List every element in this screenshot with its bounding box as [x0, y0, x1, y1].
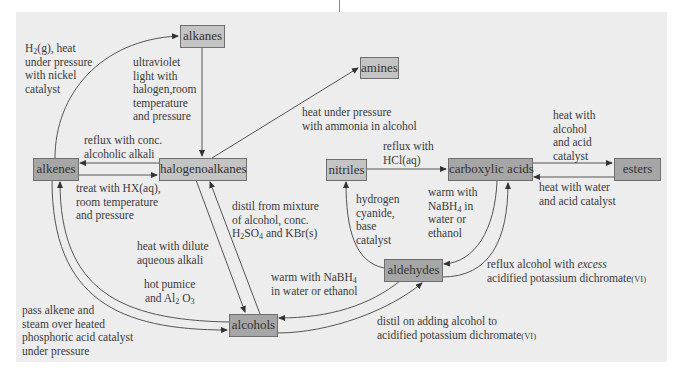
- label-hydrolysis: heat with waterand acid catalyst: [539, 181, 616, 208]
- node-carboxylic-acids: carboxylic acids: [448, 158, 533, 181]
- node-alkanes: alkanes: [180, 25, 225, 48]
- label-distil-kbr: distil from mixtureof alcohol, conc.H2SO…: [232, 200, 319, 241]
- node-amines: amines: [360, 57, 399, 79]
- node-halogenoalkanes: halogenoalkanes: [159, 158, 247, 181]
- label-hydrogenation: H2(g), heatunder pressurewith nickelcata…: [25, 42, 92, 96]
- label-esterification: heat withalcoholand acidcatalyst: [553, 109, 595, 163]
- node-nitriles: nitriles: [326, 159, 367, 181]
- label-dilute-alkali: heat with diluteaqueous alkali: [137, 240, 209, 267]
- label-hcl: reflux withHCl(aq): [383, 140, 434, 167]
- label-uv-halogenation: ultravioletlight withhalogen,roomtempera…: [133, 56, 197, 124]
- label-nabh4-aldehyde: warm with NaBH4in water or ethanol: [271, 271, 358, 298]
- label-steam: pass alkene andsteam over heatedphosphor…: [22, 304, 133, 358]
- label-pumice: hot pumiceand Al2 O3: [144, 278, 195, 305]
- label-distil-aldehyde: distil on adding alcohol toacidified pot…: [377, 315, 536, 343]
- label-hcn: hydrogencyanide,basecatalyst: [356, 193, 399, 247]
- label-excess-dichromate: reflux alcohol with excessacidified pota…: [487, 258, 646, 286]
- label-reflux-alkali: reflux with conc.alcoholic alkali: [84, 134, 162, 161]
- node-alkenes: alkenes: [33, 158, 79, 181]
- node-aldehydes: aldehydes: [384, 259, 443, 282]
- label-nabh4-acid: warm withNaBH4 inwater orethanol: [428, 186, 478, 240]
- node-esters: esters: [614, 158, 661, 181]
- node-alcohols: alcohols: [229, 314, 278, 337]
- label-hx: treat with HX(aq),room temperatureand pr…: [76, 182, 161, 223]
- label-ammonia: heat under pressurewith ammonia in alcoh…: [302, 106, 417, 133]
